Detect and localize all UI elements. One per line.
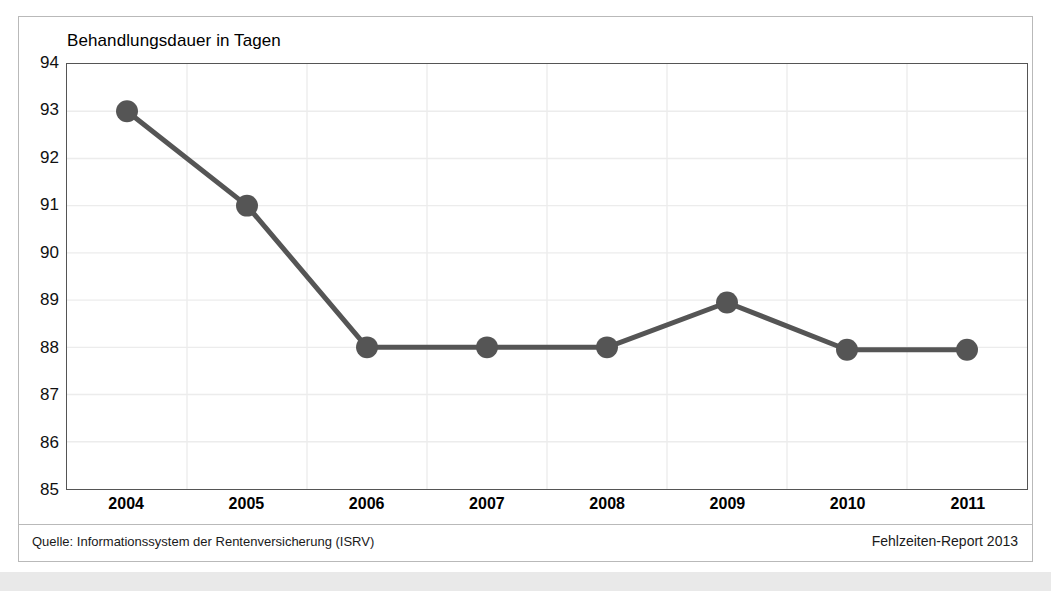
y-axis-tick-94: 94: [25, 53, 59, 73]
x-axis-tick-labels: 20042005200620072008200920102011: [66, 495, 1028, 525]
y-axis-tick-88: 88: [25, 338, 59, 358]
plot-area: [66, 63, 1028, 490]
y-axis-tick-92: 92: [25, 148, 59, 168]
data-point-2009: [716, 292, 738, 314]
y-axis-tick-labels: 94939291908988878685: [19, 63, 59, 490]
y-axis-tick-93: 93: [25, 100, 59, 120]
y-axis-tick-90: 90: [25, 243, 59, 263]
report-note: Fehlzeiten-Report 2013: [872, 533, 1018, 549]
y-axis-tick-86: 86: [25, 433, 59, 453]
chart-figure-frame: Behandlungsdauer in Tagen 94939291908988…: [18, 16, 1033, 562]
data-point-2011: [956, 339, 978, 361]
x-axis-tick-2005: 2005: [229, 495, 265, 513]
data-point-2010: [836, 339, 858, 361]
data-point-2006: [356, 336, 378, 358]
x-axis-tick-2008: 2008: [589, 495, 625, 513]
data-series-line: [67, 64, 1027, 489]
y-axis-tick-87: 87: [25, 385, 59, 405]
x-axis-tick-2009: 2009: [710, 495, 746, 513]
data-point-2004: [116, 100, 138, 122]
x-axis-tick-2004: 2004: [108, 495, 144, 513]
x-axis-tick-2010: 2010: [830, 495, 866, 513]
source-note: Quelle: Informationssystem der Rentenver…: [32, 534, 374, 549]
data-point-2007: [476, 336, 498, 358]
data-point-2005: [236, 195, 258, 217]
x-axis-tick-2011: 2011: [951, 495, 986, 513]
y-axis-tick-85: 85: [25, 480, 59, 500]
x-axis-tick-2007: 2007: [469, 495, 505, 513]
chart-title: Behandlungsdauer in Tagen: [67, 31, 281, 51]
page-bottom-strip: [0, 572, 1051, 591]
y-axis-tick-89: 89: [25, 290, 59, 310]
figure-footer: Quelle: Informationssystem der Rentenver…: [19, 524, 1032, 561]
x-axis-tick-2006: 2006: [349, 495, 385, 513]
data-point-2008: [596, 336, 618, 358]
y-axis-tick-91: 91: [25, 195, 59, 215]
